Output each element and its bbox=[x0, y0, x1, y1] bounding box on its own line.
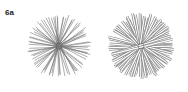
starburst-diagrams bbox=[0, 0, 188, 92]
thin-line-starburst bbox=[28, 15, 91, 76]
tube-starburst bbox=[108, 13, 173, 79]
